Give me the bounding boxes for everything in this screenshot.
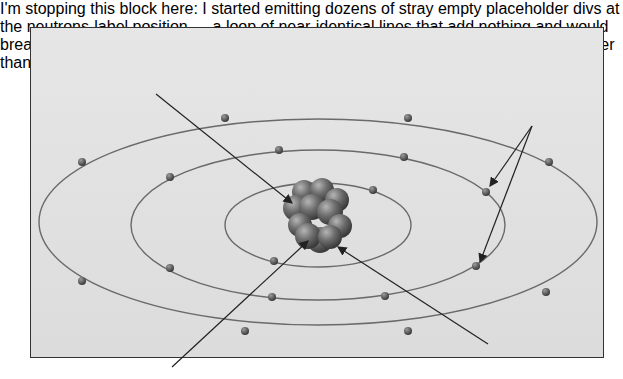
nucleus: [283, 178, 352, 253]
electrons: [78, 114, 553, 335]
middle-orbit: [131, 150, 505, 300]
atom-diagram: [0, 0, 623, 379]
electron-orbits: [39, 119, 597, 325]
